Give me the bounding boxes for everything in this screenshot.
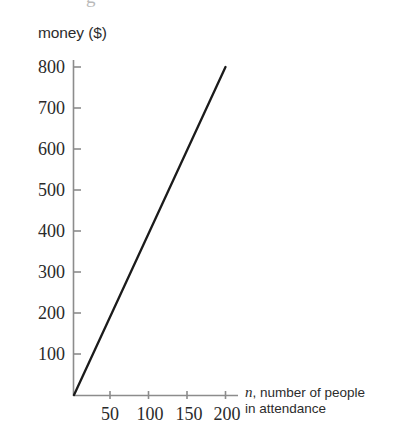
y-tick-label: 300 <box>7 262 65 283</box>
x-axis-title-line2: in attendance <box>245 401 326 416</box>
x-axis-variable-symbol: n <box>245 384 253 400</box>
x-axis-title: n, number of people in attendance <box>245 385 405 416</box>
y-tick-label: 800 <box>7 57 65 78</box>
y-tick-label: 700 <box>7 98 65 119</box>
x-tick-label: 150 <box>176 404 203 425</box>
x-tick-label: 50 <box>101 404 119 425</box>
y-tick-label: 400 <box>7 221 65 242</box>
y-tick-label: 600 <box>7 139 65 160</box>
y-tick-label: 500 <box>7 180 65 201</box>
data-line-money <box>74 67 226 395</box>
x-axis-title-line1: , number of people <box>253 385 366 400</box>
x-tick-label: 200 <box>214 404 241 425</box>
y-tick-label: 100 <box>7 344 65 365</box>
chart-figure: g money ($) 800 700 600 500 <box>0 0 405 441</box>
x-tick-label: 100 <box>137 404 164 425</box>
y-tick-label: 200 <box>7 303 65 324</box>
